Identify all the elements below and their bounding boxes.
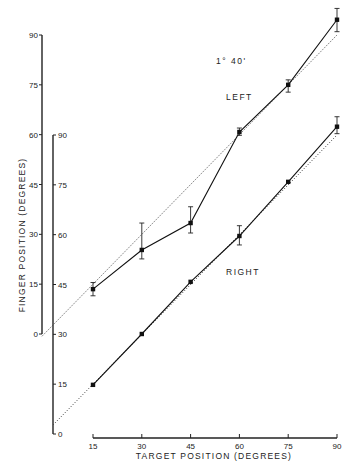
y-tick-label: 60	[29, 131, 38, 140]
data-point	[335, 124, 339, 128]
series-line-right	[93, 127, 337, 385]
x-axis-title: TARGET POSITION (DEGREES)	[136, 451, 292, 461]
chart-canvas: 01530456075900153045607590153045607590 T…	[0, 0, 356, 474]
data-point	[188, 280, 192, 284]
y-tick-label: 90	[58, 131, 67, 140]
left-identity	[42, 35, 337, 336]
y-tick-label: 30	[29, 230, 38, 239]
right-series-label: RIGHT	[226, 267, 260, 277]
y-tick-label: 15	[58, 380, 67, 389]
data-point	[286, 83, 290, 87]
x-tick-label: 45	[186, 442, 195, 451]
y-tick-label: 75	[29, 81, 38, 90]
data-point	[286, 180, 290, 184]
data-point	[91, 287, 95, 291]
annotation-angle: 1° 40'	[216, 56, 247, 66]
data-point	[335, 18, 339, 22]
x-tick-label: 60	[235, 442, 244, 451]
y-axis-title: FINGER POSITION (DEGREES)	[17, 158, 27, 313]
y-tick-label: 75	[58, 181, 67, 190]
y-tick-label: 45	[58, 281, 67, 290]
y-tick-label: 60	[58, 231, 67, 240]
y-tick-label: 0	[58, 430, 63, 439]
y-tick-label: 15	[29, 280, 38, 289]
y-tick-label: 45	[29, 181, 38, 190]
x-tick-label: 75	[284, 442, 293, 451]
data-point	[140, 332, 144, 336]
reference-lines	[42, 35, 337, 425]
left-series-label: LEFT	[226, 92, 253, 102]
x-tick-label: 30	[137, 442, 146, 451]
data-point	[91, 383, 95, 387]
y-tick-label: 30	[58, 330, 67, 339]
x-tick-label: 90	[333, 442, 342, 451]
y-tick-label: 0	[34, 330, 39, 339]
y-tick-label: 90	[29, 31, 38, 40]
series-line-left	[93, 20, 337, 289]
data-point	[188, 221, 192, 225]
axes: 01530456075900153045607590153045607590	[29, 31, 342, 451]
data-point	[140, 248, 144, 252]
data-point	[237, 130, 241, 134]
data-point	[237, 234, 241, 238]
data-series	[91, 8, 340, 387]
x-tick-label: 15	[89, 442, 98, 451]
